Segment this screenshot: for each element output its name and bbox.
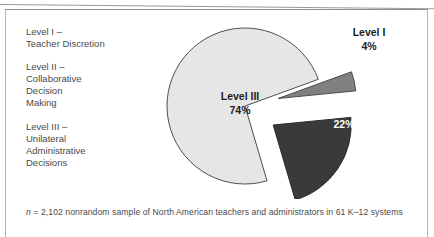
legend-item-level-1: Level I – Teacher Discretion — [26, 26, 141, 50]
pie-label-level-2-name: Level II — [326, 104, 362, 116]
pie-chart: Level III 74% Level II 22% Level I 4% — [143, 14, 413, 199]
figure-root: Level I – Teacher Discretion Level II – … — [0, 0, 434, 237]
pie-label-level-3-name: Level III — [221, 90, 260, 102]
legend-item-level-2: Level II – Collaborative Decision Making — [26, 61, 141, 109]
figure-caption: n = 2,102 nonrandom sample of North Amer… — [26, 207, 403, 217]
pie-chart-svg: Level III 74% Level II 22% Level I 4% — [143, 14, 413, 199]
pie-label-level-1-name: Level I — [353, 26, 386, 38]
pie-label-level-2-value: 22% — [333, 118, 355, 130]
pie-label-level-3-value: 74% — [229, 104, 251, 116]
caption-text: = 2,102 nonrandom sample of North Americ… — [31, 207, 403, 217]
pie-label-level-1-value: 4% — [361, 40, 377, 52]
legend-item-level-3: Level III – Unilateral Administrative De… — [26, 121, 141, 169]
legend: Level I – Teacher Discretion Level II – … — [26, 26, 141, 169]
